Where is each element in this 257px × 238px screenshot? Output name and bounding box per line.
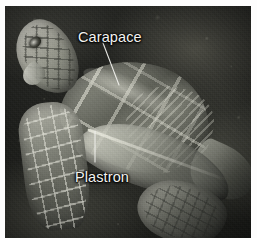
label-plastron: Plastron	[75, 170, 129, 185]
turtle-photograph: Carapace Plastron	[5, 6, 251, 238]
turtle-anatomy-figure: Carapace Plastron	[0, 0, 257, 238]
label-carapace: Carapace	[78, 30, 142, 45]
